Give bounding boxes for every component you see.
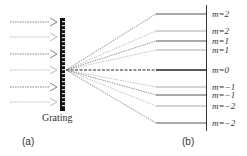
incident-ray (10, 18, 57, 26)
order-label: m=−2 (212, 101, 236, 111)
order-label: m=0 (212, 65, 230, 75)
order-label: m=−1 (212, 90, 235, 100)
order-label: m=2 (212, 9, 230, 19)
incident-ray (10, 98, 57, 106)
order-label: m=2 (212, 26, 230, 36)
panel-b-label: (b) (182, 136, 194, 147)
grating (60, 18, 65, 111)
incident-ray (10, 33, 57, 41)
panel-a-label: (a) (22, 136, 34, 147)
incident-ray (10, 66, 57, 74)
diffracted-rays (66, 14, 206, 123)
grating-label: Grating (42, 112, 73, 123)
incident-rays (10, 18, 57, 106)
diffraction-grating-diagram: m=2 m=2 m=1 m=1 m=0 m=−1 m=−1 m=−2 m=−2 … (0, 0, 247, 156)
incident-ray (10, 50, 57, 58)
order-label: m=1 (212, 45, 229, 55)
order-label: m=−2 (212, 118, 236, 128)
incident-ray (10, 83, 57, 91)
order-labels: m=2 m=2 m=1 m=1 m=0 m=−1 m=−1 m=−2 m=−2 (212, 9, 236, 128)
